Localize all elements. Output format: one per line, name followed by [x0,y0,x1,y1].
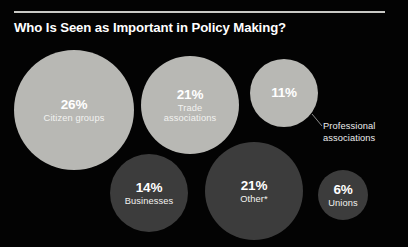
bubble-trade-associations[interactable]: 21%Trade associations [141,56,239,154]
bubble-label: Other* [240,194,267,204]
bubble-citizen-groups[interactable]: 26%Citizen groups [14,50,134,170]
callout-professional-associations: Professional associations [323,121,375,144]
bubble-other[interactable]: 21%Other* [205,142,303,240]
bubble-label: Trade associations [164,103,216,124]
bubble-value: 6% [333,182,352,197]
infographic-canvas: Who Is Seen as Important in Policy Makin… [0,0,408,247]
bubble-businesses[interactable]: 14%Businesses [110,154,188,232]
bubble-value: 26% [61,97,87,112]
bubble-value: 11% [271,85,297,100]
bubble-value: 21% [241,178,267,193]
bubble-professional-associations[interactable]: 11% [250,59,318,127]
bubble-unions[interactable]: 6%Unions [318,170,368,220]
bubble-value: 14% [136,180,162,195]
bubble-value: 21% [177,87,203,102]
bubble-label: Citizen groups [44,113,105,123]
bubble-label: Unions [328,198,358,208]
bubble-label: Businesses [125,196,174,206]
